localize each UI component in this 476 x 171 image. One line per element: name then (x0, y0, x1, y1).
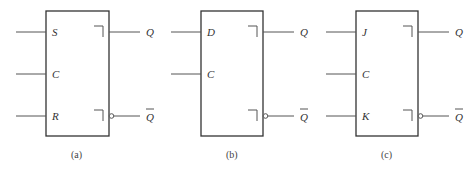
input-label-c: C (362, 68, 370, 80)
output-label-q: Q (146, 26, 154, 38)
jk-flip-flop: J C K Q Q (c) (326, 11, 463, 161)
sr-flip-flop: S C R Q Q (a) (16, 11, 154, 161)
input-label-c: C (52, 68, 60, 80)
inversion-bubble-icon (109, 114, 114, 119)
output-label-q: Q (300, 26, 308, 38)
d-flip-flop: D C Q Q (b) (171, 11, 308, 161)
input-label-r: R (51, 110, 59, 122)
inversion-bubble-icon (263, 114, 268, 119)
output-label-qbar: Q (455, 111, 463, 123)
output-label-qbar: Q (146, 111, 154, 123)
output-label-q: Q (455, 26, 463, 38)
caption-c: (c) (381, 149, 392, 161)
input-label-k: K (361, 110, 370, 122)
output-label-qbar: Q (300, 111, 308, 123)
caption-b: (b) (226, 149, 238, 161)
inversion-bubble-icon (418, 114, 423, 119)
input-label-s: S (52, 26, 58, 38)
input-label-d: D (206, 26, 215, 38)
caption-a: (a) (71, 149, 82, 161)
input-label-c: C (207, 68, 215, 80)
flip-flop-diagrams: S C R Q Q (a) D C Q Q (b) J C K (0, 0, 476, 171)
